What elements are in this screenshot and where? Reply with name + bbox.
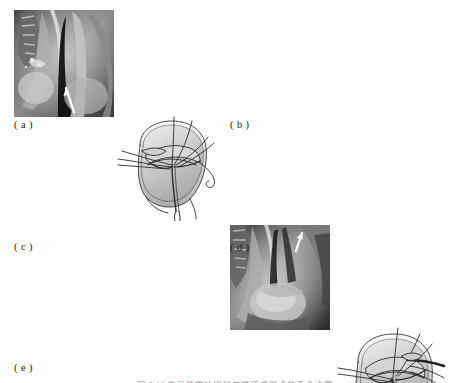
panel-a-line-drawing — [116, 115, 220, 221]
panel-d-label: ( d ) — [230, 243, 250, 254]
panel-a-label: ( a ) — [14, 120, 33, 131]
panel-e-label: ( e ) — [14, 363, 33, 374]
panel-b-photograph — [230, 225, 330, 330]
panel-a-photograph — [14, 10, 114, 117]
figure-caption: 图 5-13 主动脉瓣叶切除与瓣环成形术的手术步骤 — [0, 378, 470, 383]
figure-plate: ( a ) — [0, 0, 470, 383]
panel-b-line-drawing — [336, 326, 446, 383]
panel-b-label: ( b ) — [230, 120, 250, 131]
panel-c-label: ( c ) — [14, 242, 33, 253]
